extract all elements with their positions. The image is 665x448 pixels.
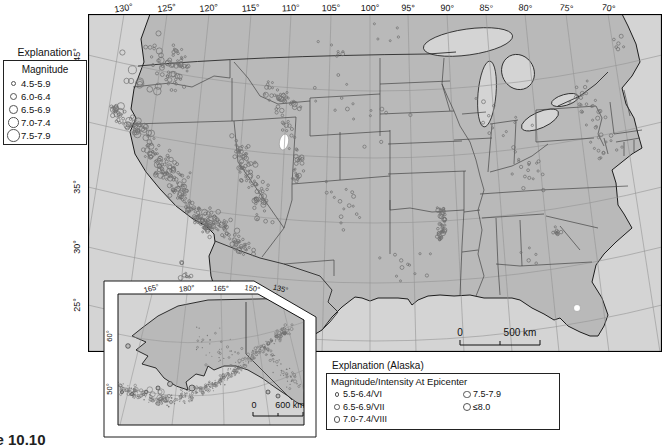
alaska-legend-box: Magnitude/Intensity At Epicenter 5.5-6.4… [326,373,560,430]
legend-box: Magnitude 4.5-5.9 6.0-6.4 6.5-6.9 7.0-7.… [3,60,87,145]
lon-tick-label: 70° [601,2,616,14]
alaska-map: 0 600 km [117,294,312,425]
legend-item-label: 7.5-7.9 [21,130,51,141]
lon-tick-label: 130° [114,2,134,15]
lon-tick-label: 120° [199,2,219,14]
legend-item: 7.5-7.9 [461,388,555,401]
legend-item-label: 6.5-6.9 [21,104,51,115]
legend-item-label: 7.0-7.4/VIII [343,414,387,424]
lat-tick-label: 30° [72,240,82,254]
legend-item-label: ≤8.0 [473,402,490,412]
magnitude-circle-icon [461,403,473,412]
legend-subtitle: Magnitude [6,64,84,75]
legend-item: 5.5-6.4/VI [331,388,461,401]
legend-item: ≤8.0 [461,401,555,414]
scale-zero-label: 0 [457,327,463,338]
legend-item-label: 5.5-6.4/VI [343,389,382,399]
magnitude-circle-icon [331,416,343,423]
legend-item: 6.0-6.4 [6,90,84,103]
lon-tick-label: 80° [518,2,533,13]
magnitude-circle-icon [6,81,21,86]
lake-okeechobee [574,305,581,312]
legend-item: 6.5-6.9 [6,103,84,116]
legend-alaska: Explanation (Alaska) Magnitude/Intensity… [326,360,560,430]
legend-item-label: 4.5-5.9 [21,78,51,89]
lon-tick-label: 100° [361,3,380,13]
lon-tick-label: 125° [157,2,177,14]
magnitude-circle-icon [461,391,473,399]
alaska-legend-subtitle: Magnitude/Intensity At Epicenter [331,376,555,387]
magnitude-circle-icon [331,392,343,397]
alaska-legend-column-2: 7.5-7.9 ≤8.0 [461,388,555,426]
lat-tick-label: 35° [72,180,82,194]
legend-item: 4.5-5.9 [6,77,84,90]
magnitude-circle-icon [331,404,343,410]
magnitude-circle-icon [6,105,21,114]
alaska-scale-zero-label: 0 [251,400,256,410]
alaska-lon-tick-label: 180° [179,283,195,294]
legend-item-label: 7.5-7.9 [473,389,501,399]
lon-tick-label: 105° [321,3,340,13]
lon-tick-label: 85° [479,3,494,14]
legend-item-label: 6.0-6.4 [21,91,51,102]
scale-distance-label: 500 km [504,327,537,338]
legend-item-label: 6.5-6.9/VII [343,402,385,412]
figure-caption: Figure 10.10 [0,431,46,448]
lon-tick-label: 75° [559,2,574,14]
alaska-legend-column-1: 5.5-6.4/VI 6.5-6.9/VII 7.0-7.4/VIII [331,388,461,426]
alaska-lon-tick-label: 165° [213,284,229,293]
alaska-legend-title: Explanation (Alaska) [326,360,560,371]
lon-tick-label: 90° [440,3,454,14]
legend-item: 7.0-7.4/VIII [331,413,461,426]
lon-tick-label: 95° [401,3,415,13]
alaska-lat-tick-label: 50° [105,383,114,394]
legend-conus: Explanation Magnitude 4.5-5.9 6.0-6.4 6.… [3,46,87,145]
magnitude-circle-icon [6,93,21,100]
magnitude-circle-icon [6,129,21,142]
lon-tick-label: 110° [282,3,301,14]
legend-title: Explanation [3,46,87,58]
legend-item-label: 7.0-7.4 [21,117,51,128]
legend-item: 7.0-7.4 [6,116,84,129]
legend-item: 7.5-7.9 [6,129,84,142]
alaska-scale-distance-label: 600 km [275,400,305,410]
alaska-lat-tick-label: 60° [105,330,114,341]
magnitude-circle-icon [6,117,21,128]
legend-item: 6.5-6.9/VII [331,401,461,414]
lat-tick-label: 25° [72,298,82,312]
lon-tick-label: 115° [241,2,260,13]
